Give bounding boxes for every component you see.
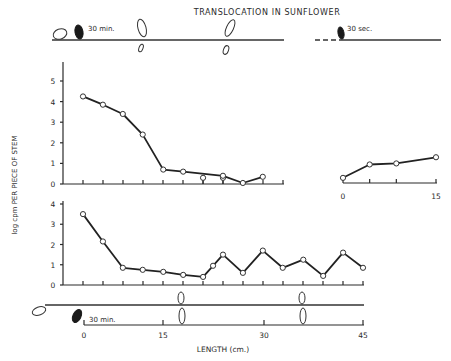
x-tick-label: 15 bbox=[431, 192, 441, 201]
bottom-diagram-label: 30 min. bbox=[89, 316, 116, 324]
data-point bbox=[321, 273, 326, 278]
leaf-pair-icon bbox=[300, 308, 306, 324]
data-point bbox=[120, 265, 125, 270]
data-point bbox=[161, 167, 166, 172]
data-point bbox=[200, 175, 205, 180]
data-point bbox=[240, 180, 245, 185]
scale-tick-label: 45 bbox=[358, 331, 368, 340]
treated-leaf-icon bbox=[74, 24, 84, 39]
data-point bbox=[280, 265, 285, 270]
right-diagram-label: 30 sec. bbox=[347, 25, 372, 33]
y-tick-label: 5 bbox=[51, 77, 56, 86]
y-tick-label: 4 bbox=[51, 200, 56, 209]
y-tick-label: 2 bbox=[51, 241, 56, 250]
scale-tick-label: 30 bbox=[259, 331, 269, 340]
treated-leaf-icon bbox=[70, 308, 83, 324]
data-point bbox=[140, 267, 145, 272]
upper-left-chart: 012345 bbox=[51, 62, 284, 189]
data-point bbox=[100, 102, 105, 107]
upper-left-series-line bbox=[83, 96, 263, 183]
open-leaf-icon bbox=[31, 305, 47, 317]
open-leaf-icon bbox=[52, 27, 69, 41]
chart-title: TRANSLOCATION IN SUNFLOWER bbox=[193, 8, 341, 17]
scale-tick-label: 0 bbox=[82, 331, 87, 340]
data-point bbox=[394, 161, 399, 166]
bottom-plant-diagram: 30 min. 0153045 LENGTH (cm.) bbox=[31, 292, 368, 354]
leaf-pair-icon bbox=[222, 45, 230, 55]
lower-chart: 01234 bbox=[51, 200, 366, 290]
data-point bbox=[200, 274, 205, 279]
top-diagram-label: 30 min. bbox=[88, 25, 115, 33]
scale-tick-label: 15 bbox=[158, 331, 168, 340]
upper-right-chart: 015 bbox=[340, 155, 441, 201]
upper-right-series-line bbox=[343, 157, 436, 178]
y-tick-label: 4 bbox=[51, 98, 56, 107]
y-tick-label: 1 bbox=[51, 159, 56, 168]
data-point bbox=[220, 252, 225, 257]
data-point bbox=[340, 175, 345, 180]
data-point bbox=[120, 111, 125, 116]
data-point bbox=[433, 155, 438, 160]
leaf-pair-icon bbox=[299, 292, 305, 304]
data-point bbox=[161, 269, 166, 274]
top-plant-diagram: 30 min. 30 sec. bbox=[52, 18, 441, 55]
treated-leaf-icon bbox=[337, 27, 345, 40]
leaf-pair-icon bbox=[179, 308, 185, 324]
data-point bbox=[220, 173, 225, 178]
data-point bbox=[240, 270, 245, 275]
data-point bbox=[360, 265, 365, 270]
y-axis-label: log cpm PER PIECE OF STEM bbox=[11, 135, 19, 234]
x-tick-label: 0 bbox=[341, 192, 346, 201]
y-tick-label: 2 bbox=[51, 139, 56, 148]
leaf-pair-icon bbox=[178, 292, 184, 304]
data-point bbox=[260, 174, 265, 179]
y-tick-label: 3 bbox=[51, 118, 56, 127]
y-tick-label: 0 bbox=[51, 180, 56, 189]
figure: TRANSLOCATION IN SUNFLOWER 30 min. 30 se… bbox=[0, 0, 451, 361]
data-point bbox=[301, 257, 306, 262]
y-tick-label: 3 bbox=[51, 220, 56, 229]
data-point bbox=[367, 162, 372, 167]
data-point bbox=[181, 272, 186, 277]
leaf-pair-icon bbox=[223, 18, 237, 37]
leaf-pair-icon bbox=[136, 18, 148, 37]
data-point bbox=[140, 132, 145, 137]
y-tick-label: 1 bbox=[51, 261, 56, 270]
data-point bbox=[181, 169, 186, 174]
data-point bbox=[260, 248, 265, 253]
x-axis-label: LENGTH (cm.) bbox=[197, 345, 249, 354]
leaf-pair-icon bbox=[138, 44, 144, 53]
data-point bbox=[80, 94, 85, 99]
data-point bbox=[80, 212, 85, 217]
data-point bbox=[340, 250, 345, 255]
y-tick-label: 0 bbox=[51, 281, 56, 290]
data-point bbox=[210, 263, 215, 268]
data-point bbox=[100, 239, 105, 244]
